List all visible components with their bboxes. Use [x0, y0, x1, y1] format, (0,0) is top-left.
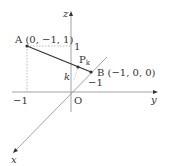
coordinate-diagram: z y x O A (0, −1, 1) B (−1, 0, 0) Pk 1 −…	[0, 0, 170, 166]
point-a-label: A (0, −1, 1)	[14, 34, 73, 45]
height-k-label: k	[64, 71, 70, 82]
point-b	[89, 70, 92, 73]
x-axis-label: x	[11, 154, 17, 165]
y-tick-neg-one: −1	[13, 95, 28, 106]
z-tick-one: 1	[74, 41, 80, 52]
origin-label: O	[74, 95, 82, 106]
x-tick-neg-one: −1	[88, 77, 103, 88]
x-axis	[16, 57, 107, 150]
point-p-label: Pk	[79, 54, 91, 67]
z-axis-label: z	[62, 8, 69, 19]
z-axis-arrow-icon	[69, 11, 73, 16]
y-axis-label: y	[150, 94, 157, 105]
guide-p-vertical	[74, 67, 78, 80]
point-pk	[76, 65, 79, 68]
point-b-label: B (−1, 0, 0)	[97, 67, 156, 78]
